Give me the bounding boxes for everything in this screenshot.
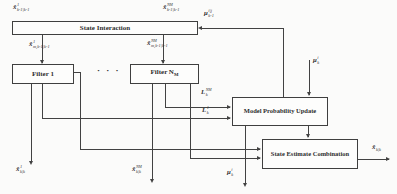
state-interaction-box: State Interaction [12, 21, 198, 35]
wire [190, 83, 191, 158]
arrowhead [198, 26, 202, 30]
wire [190, 158, 260, 159]
label-mixed-state-nm: x̂NMm,k-1|k-1 [147, 39, 168, 48]
arrowhead [227, 105, 231, 109]
filter-nm-label: Filter N [151, 68, 174, 76]
label-out-state-nm: x̂NMk|k [132, 165, 142, 174]
label-prev-state-nm: x̂NMk-1|k-1 [163, 3, 179, 12]
arrowhead [307, 92, 311, 96]
model-probability-update-box: Model Probability Update [232, 97, 328, 126]
label-mixed-state-1: x̂1m,k-1|k-1 [29, 40, 50, 49]
filters-ellipsis: · · · [97, 66, 121, 75]
wire [73, 72, 80, 73]
state-estimate-combination-label: State Estimate Combination [271, 151, 349, 158]
wire [165, 107, 230, 108]
wire [309, 60, 310, 95]
filter-nm-box: Filter NM [130, 64, 199, 84]
label-mixing-prob: μi|jk-1 [204, 9, 214, 18]
state-interaction-label: State Interaction [80, 25, 130, 32]
wire [245, 125, 246, 185]
label-prev-state-1: x̂1k-1|k-1 [13, 3, 29, 12]
arrowhead [243, 183, 247, 187]
wire [42, 118, 230, 119]
wire [80, 72, 81, 149]
filter-nm-label-subscript: M [174, 73, 179, 78]
wire [31, 83, 32, 163]
arrowhead [29, 161, 33, 165]
label-model-prob-top: μik [313, 56, 319, 65]
wire [202, 28, 283, 29]
label-combined-state: x̂k|k [372, 143, 381, 152]
wire [80, 149, 260, 150]
arrowhead [257, 147, 261, 151]
arrowhead [257, 156, 261, 160]
arrowhead [227, 116, 231, 120]
wire [42, 83, 43, 118]
filter-1-label: Filter 1 [32, 71, 54, 78]
arrowhead [386, 157, 390, 161]
label-out-state-1: x̂1k|k [16, 165, 25, 174]
label-model-prob-out: μik [227, 168, 233, 177]
state-estimate-combination-box: State Estimate Combination [262, 139, 358, 169]
wire [357, 159, 389, 160]
label-likelihood-1: L1k [202, 106, 209, 115]
model-probability-update-label: Model Probability Update [244, 108, 316, 115]
filter-1-box: Filter 1 [12, 64, 74, 84]
arrowhead [150, 179, 154, 183]
wire [283, 28, 284, 97]
wire [165, 83, 166, 107]
arrowhead [306, 134, 310, 138]
imm-filter-block-diagram: State Interaction Filter 1 Filter NM Mod… [0, 0, 397, 194]
label-likelihood-nm: LNMk [201, 88, 212, 97]
wire [152, 83, 153, 181]
